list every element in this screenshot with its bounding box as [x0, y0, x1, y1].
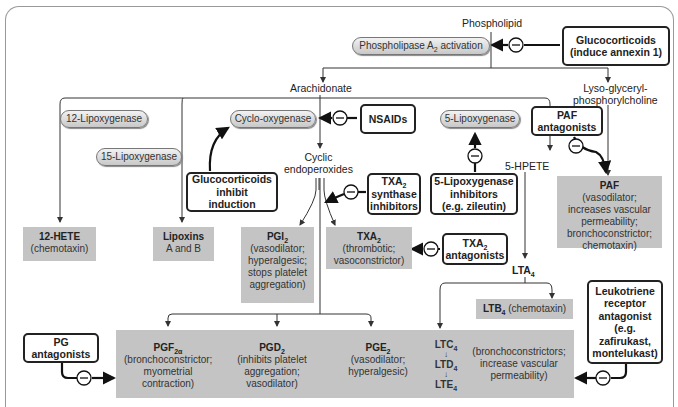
- gluco-line2: (induce annexin 1): [564, 46, 668, 59]
- pgd2-product: PGD2 (inhibits platelet aggregation; vas…: [232, 342, 312, 390]
- tsi-line2: synthase: [369, 188, 419, 201]
- prostaglandins-product-group: PGF2α (bronchoconstrictor; myometrial co…: [116, 330, 431, 398]
- lxi-line1: 5-Lipoxygenase: [432, 175, 516, 188]
- tsi-txa: TXA: [382, 175, 403, 187]
- lte4-n: LTE: [435, 379, 453, 390]
- arrow-down-icon: ↓: [431, 371, 461, 378]
- 12-hete-product: 12-HETE (chemotaxin): [23, 227, 96, 261]
- gci-line1: Glucocorticoids: [188, 173, 276, 186]
- pgf2a-d1: (bronchoconstrictor;: [124, 354, 212, 366]
- arrow-down-icon: ↓: [431, 351, 461, 358]
- pgd2-n: PGD: [259, 342, 281, 353]
- cyclo-oxygenase-pill: Cyclo-oxygenase: [230, 110, 316, 128]
- lyso-line2: phosphorylcholine: [573, 94, 658, 106]
- pge2-name: PGE2: [365, 342, 390, 353]
- lta4-text: LTA: [512, 264, 531, 276]
- ltc-ltd-lte-stack: LTC4 ↓ LTD4 ↓ LTE4: [431, 338, 461, 391]
- pgi2-d4: aggregation): [241, 279, 314, 291]
- pgi2-name: PGI2: [267, 231, 288, 242]
- ltb4-name: LTB4: [483, 303, 506, 314]
- pge2-n: PGE: [365, 342, 386, 353]
- paf-d1: (vasodilator;: [557, 192, 662, 204]
- lipoxins-desc: A and B: [166, 243, 201, 254]
- lta-l2: receptor: [589, 297, 661, 310]
- txa2-n: TXA: [357, 231, 377, 242]
- nsaids-box: NSAIDs: [360, 104, 416, 134]
- lta-l1: Leukotriene: [589, 285, 661, 298]
- leukotriene-antagonist-box: Leukotriene receptor antagonist (e.g. za…: [587, 280, 663, 364]
- pgd2-d3: vasodilator): [232, 378, 312, 390]
- tsi-line1: TXA2: [369, 175, 419, 188]
- cyclic-endoperoxides-label: Cyclic endoperoxides: [284, 151, 353, 175]
- pla2-text: Phospholipase A: [359, 40, 434, 51]
- pgi2-d3: stops platelet: [241, 267, 314, 279]
- pga-line1: PG: [25, 336, 97, 349]
- lta-l3: antagonist: [589, 310, 661, 323]
- ltb4-n: LTB: [483, 303, 502, 314]
- lta-l5: zafirukast,: [589, 335, 661, 348]
- pgf2a-d3: contraction): [124, 378, 212, 390]
- ce-line2: endoperoxides: [284, 163, 353, 175]
- paf-d2: increases vascular: [557, 204, 662, 216]
- clt-d3: permeability): [467, 370, 571, 382]
- ltb4-desc: (chemotaxin): [506, 303, 567, 314]
- pge2-product: PGE2 (vasodilator; hyperalgesic): [338, 342, 418, 378]
- pgd2-name: PGD2: [259, 342, 285, 353]
- ltc4-sub: 4: [453, 345, 457, 352]
- 5-lipoxygenase-inhibitors-box: 5-Lipoxygenase inhibitors (e.g. zileutin…: [430, 173, 518, 215]
- pla2-tail: activation: [438, 40, 483, 51]
- ltd4-n: LTD: [435, 359, 454, 370]
- lta4-label: LTA4: [512, 264, 535, 276]
- hete12-name: 12-HETE: [39, 231, 80, 242]
- lipoxins-name: Lipoxins: [163, 231, 204, 242]
- paf-d5: chemotaxin): [557, 240, 662, 252]
- ta-line1: TXA2: [444, 237, 506, 250]
- phospholipid-label: Phospholipid: [462, 17, 522, 29]
- paf-d4: bronchoconstrictor;: [557, 228, 662, 240]
- lxi-line3: (e.g. zileutin): [432, 200, 516, 213]
- pgd2-d2: aggregation;: [232, 366, 312, 378]
- gci-line2: inhibit: [188, 186, 276, 199]
- lte4-label: LTE4: [431, 378, 461, 391]
- lyso-line1: Lyso-glyceryl-: [573, 82, 658, 94]
- pgf2a-name: PGF2α: [154, 342, 183, 353]
- 12-lipoxygenase-pill: 12-Lipoxygenase: [60, 110, 148, 128]
- paf-d3: permeability;: [557, 216, 662, 228]
- ce-line1: Cyclic: [284, 151, 353, 163]
- clt-d2: increase vascular: [467, 358, 571, 370]
- pge2-d1: (vasodilator;: [338, 354, 418, 366]
- 5-lipoxygenase-pill: 5-Lipoxygenase: [440, 110, 520, 128]
- pa-line2: antagonists: [533, 121, 601, 134]
- arachidonate-label: Arachidonate: [290, 82, 352, 94]
- ltb4-product: LTB4 (chemotaxin): [476, 299, 573, 319]
- txa2-name: TXA2: [357, 231, 381, 242]
- pa-line1: PAF: [533, 109, 601, 122]
- phospholipase-a2-pill: Phospholipase A2 activation: [352, 37, 490, 55]
- pg-antagonists-box: PG antagonists: [23, 333, 99, 363]
- clt-d1: (bronchoconstrictors;: [467, 346, 571, 358]
- pgf2a-product: PGF2α (bronchoconstrictor; myometrial co…: [124, 342, 212, 390]
- ltd4-sub: 4: [453, 365, 457, 372]
- txa2-antagonists-box: TXA2 antagonists: [442, 233, 508, 265]
- ta-txa: TXA: [463, 237, 484, 249]
- pga-line2: antagonists: [25, 348, 97, 361]
- tsi-line3: inhibitors: [369, 200, 419, 213]
- 15-lipoxygenase-pill: 15-Lipoxygenase: [96, 148, 182, 166]
- gluco-line1: Glucocorticoids: [564, 34, 668, 47]
- pgi2-n: PGI: [267, 231, 284, 242]
- pgf2a-n: PGF: [154, 342, 175, 353]
- lyso-label: Lyso-glyceryl- phosphorylcholine: [573, 82, 658, 106]
- cysteinyl-leukotrienes-group: LTC4 ↓ LTD4 ↓ LTE4 (bronchoconstrictors;…: [423, 330, 574, 398]
- pgd2-d1: (inhibits platelet: [232, 354, 312, 366]
- txa2-synthase-inhibitors-box: TXA2 synthase inhibitors: [367, 173, 421, 215]
- paf-product: PAF (vasodilator; increases vascular per…: [557, 176, 662, 248]
- ltc4-n: LTC: [435, 339, 454, 350]
- lipoxins-product: Lipoxins A and B: [153, 227, 214, 261]
- txa2-d2: vasoconstrictor): [326, 255, 412, 267]
- ta-line2: antagonists: [444, 249, 506, 262]
- lta-l6: montelukast): [589, 347, 661, 360]
- hete12-desc: (chemotaxin): [31, 243, 89, 254]
- txa2-product: TXA2 (thrombotic; vasoconstrictor): [326, 227, 412, 269]
- txa2-d1: (thrombotic;: [326, 243, 412, 255]
- lta4-sub: 4: [531, 271, 535, 278]
